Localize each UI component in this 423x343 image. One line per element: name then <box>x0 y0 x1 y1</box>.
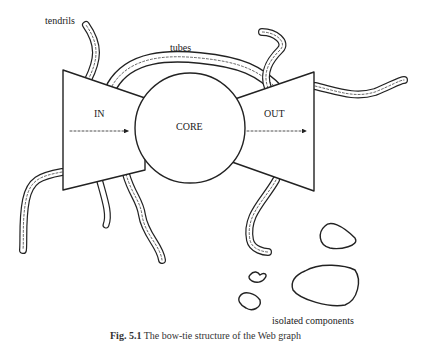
tubes-label: tubes <box>170 42 191 53</box>
core-label: CORE <box>176 121 203 132</box>
in-shape <box>63 70 145 190</box>
tendril-bottom-right <box>249 180 276 252</box>
caption-prefix: Fig. 5.1 <box>110 330 141 341</box>
tendril-bottom-center <box>126 174 162 260</box>
out-label: OUT <box>264 108 285 119</box>
tendril-bottom-middle <box>100 182 107 225</box>
caption-text: The bow-tie structure of the Web graph <box>144 330 301 341</box>
tendril-bottom-left <box>23 172 62 250</box>
isolated-components <box>239 223 359 309</box>
bow-tie-diagram: tendrils tubes IN CORE OUT isolated comp… <box>0 0 423 343</box>
tendril-right <box>315 80 404 94</box>
tendrils-label: tendrils <box>45 15 75 26</box>
diagram-canvas <box>0 0 423 343</box>
in-label: IN <box>94 108 105 119</box>
tendril-top-left <box>86 25 96 80</box>
isolated-components-label: isolated components <box>272 315 354 326</box>
figure-caption: Fig. 5.1 The bow-tie structure of the We… <box>110 330 301 341</box>
